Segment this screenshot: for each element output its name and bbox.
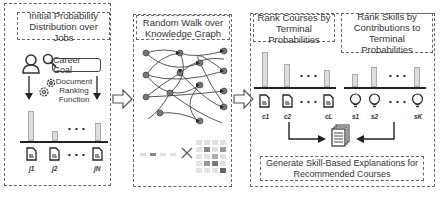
generate-explanations-box: Generate Skill-Based Explanations for Re… [260,156,424,181]
transition-matrix [138,138,230,178]
explanation-documents-icon [331,124,351,148]
course-bar-l [324,70,330,87]
user-icon [22,54,40,74]
career-goal-input[interactable]: Career Goal [52,58,101,72]
flow-arrow-1 [112,89,134,109]
job-label-n: jN [94,165,101,172]
skill-bar-2 [371,67,377,87]
course-document-icon [259,94,270,108]
panel-title-random-walk: Random Walk over Knowledge Graph [136,15,230,40]
ellipsis: • • • [68,150,86,159]
panel-title-rank-courses: Rank Courses by Terminal Probabilities [253,14,335,42]
course-document-icon [323,94,334,108]
skill-label-k: sK [414,113,422,120]
skill-bar-k [414,67,420,87]
job-bar-n [95,123,101,141]
skill-label-1: s1 [352,113,359,120]
course-label-l: cL [325,113,333,120]
ellipsis: • • • [300,97,318,106]
ellipsis: • • • [300,71,318,80]
skill-bar-1 [352,74,358,87]
baseline [254,87,336,89]
ellipsis: • • • [389,71,407,80]
baseline [344,87,426,89]
course-document-icon [282,94,293,108]
panel-title-rank-skills: Rank Skills by Contributions to Terminal… [341,13,433,53]
job-bar-2 [52,131,58,141]
lightbulb-icon [411,93,424,108]
course-bar-1 [262,52,268,87]
job-label-1: j1 [29,165,34,172]
course-label-2: c2 [284,113,291,120]
ellipsis: • • • [389,97,407,106]
document-icon [92,147,103,161]
down-arrow-left [24,76,34,100]
down-arrow-right [92,76,102,100]
ellipsis: • • • [68,124,86,133]
baseline [20,141,108,143]
job-bar-1 [28,111,34,141]
document-icon [26,147,37,161]
document-icon [49,147,60,161]
knowledge-graph [140,45,230,127]
panel-title-initial-distribution: Initial Probability Distribution over Jo… [17,12,110,40]
course-label-1: c1 [262,113,269,120]
lightbulb-icon [368,93,381,108]
job-label-2: j2 [52,165,57,172]
skill-label-2: s2 [371,113,378,120]
course-bar-2 [284,64,290,87]
lightbulb-icon [349,93,362,108]
ranking-function-label: Document Ranking Function [55,77,93,104]
